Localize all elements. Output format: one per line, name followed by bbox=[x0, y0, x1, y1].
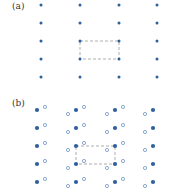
filled-site-icon bbox=[40, 4, 43, 7]
open-site-icon bbox=[82, 123, 85, 126]
open-site-icon bbox=[121, 141, 124, 144]
open-site-icon bbox=[105, 166, 108, 169]
filled-site-icon bbox=[35, 126, 39, 130]
filled-site-icon bbox=[74, 126, 78, 130]
filled-site-icon bbox=[79, 22, 82, 25]
filled-site-icon bbox=[74, 144, 78, 148]
filled-site-icon bbox=[118, 76, 121, 79]
open-site-icon bbox=[82, 177, 85, 180]
filled-site-icon bbox=[113, 180, 117, 184]
filled-site-icon bbox=[118, 40, 121, 43]
open-site-icon bbox=[105, 148, 108, 151]
open-site-icon bbox=[121, 123, 124, 126]
filled-site-icon bbox=[113, 126, 117, 130]
filled-site-icon bbox=[79, 76, 82, 79]
filled-site-icon bbox=[156, 4, 159, 7]
filled-site-icon bbox=[156, 22, 159, 25]
open-site-icon bbox=[82, 159, 85, 162]
filled-site-icon bbox=[79, 4, 82, 7]
filled-site-icon bbox=[35, 180, 39, 184]
lattice-diagram bbox=[0, 0, 169, 192]
filled-site-icon bbox=[40, 76, 43, 79]
open-site-icon bbox=[121, 159, 124, 162]
open-site-icon bbox=[121, 177, 124, 180]
filled-site-icon bbox=[74, 162, 78, 166]
filled-site-icon bbox=[74, 180, 78, 184]
filled-site-icon bbox=[35, 162, 39, 166]
open-site-icon bbox=[143, 166, 146, 169]
filled-site-icon bbox=[35, 144, 39, 148]
filled-site-icon bbox=[156, 40, 159, 43]
filled-site-icon bbox=[40, 58, 43, 61]
open-site-icon bbox=[66, 184, 69, 187]
open-site-icon bbox=[143, 148, 146, 151]
filled-site-icon bbox=[151, 126, 155, 130]
open-site-icon bbox=[82, 141, 85, 144]
open-site-icon bbox=[43, 141, 46, 144]
open-site-icon bbox=[66, 148, 69, 151]
open-site-icon bbox=[121, 105, 124, 108]
open-site-icon bbox=[66, 166, 69, 169]
filled-site-icon bbox=[113, 144, 117, 148]
panel-a bbox=[40, 4, 159, 79]
open-site-icon bbox=[43, 105, 46, 108]
filled-site-icon bbox=[118, 58, 121, 61]
open-site-icon bbox=[43, 123, 46, 126]
open-site-icon bbox=[82, 105, 85, 108]
filled-site-icon bbox=[35, 108, 39, 112]
filled-site-icon bbox=[151, 180, 155, 184]
open-site-icon bbox=[43, 159, 46, 162]
filled-site-icon bbox=[151, 162, 155, 166]
filled-site-icon bbox=[156, 76, 159, 79]
open-site-icon bbox=[105, 130, 108, 133]
filled-site-icon bbox=[79, 58, 82, 61]
open-site-icon bbox=[143, 130, 146, 133]
filled-site-icon bbox=[118, 4, 121, 7]
open-site-icon bbox=[105, 184, 108, 187]
open-site-icon bbox=[43, 177, 46, 180]
open-site-icon bbox=[105, 112, 108, 115]
panel-b bbox=[35, 105, 155, 187]
filled-site-icon bbox=[79, 40, 82, 43]
filled-site-icon bbox=[40, 22, 43, 25]
filled-site-icon bbox=[40, 40, 43, 43]
unit-cell-outline bbox=[80, 41, 119, 59]
open-site-icon bbox=[143, 184, 146, 187]
filled-site-icon bbox=[74, 108, 78, 112]
filled-site-icon bbox=[113, 108, 117, 112]
filled-site-icon bbox=[118, 22, 121, 25]
filled-site-icon bbox=[156, 58, 159, 61]
filled-site-icon bbox=[113, 162, 117, 166]
filled-site-icon bbox=[151, 108, 155, 112]
open-site-icon bbox=[66, 112, 69, 115]
filled-site-icon bbox=[151, 144, 155, 148]
unit-cell-outline bbox=[76, 146, 115, 164]
open-site-icon bbox=[143, 112, 146, 115]
open-site-icon bbox=[66, 130, 69, 133]
